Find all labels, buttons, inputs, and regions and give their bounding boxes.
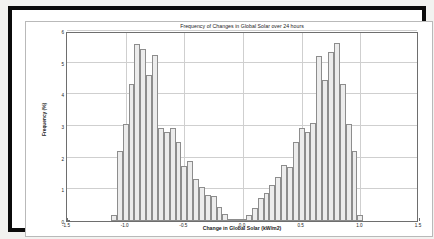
x-tick-label: -0.5 [179, 223, 187, 228]
screenshot-root: Frequency of Changes in Global Solar ove… [0, 0, 434, 239]
histogram-bars [67, 33, 417, 221]
y-axis-label: Frequency (%) [42, 72, 47, 168]
y-tick-label: 3 [56, 125, 64, 130]
gridline-horizontal [67, 30, 417, 31]
y-tick-label: 6 [56, 30, 64, 35]
x-tick-label: 0.0 [239, 223, 245, 228]
x-tick-mark [419, 218, 420, 221]
x-tick-label: 1.5 [415, 223, 421, 228]
x-tick-label: -1.0 [121, 223, 129, 228]
y-tick-label: 2 [56, 156, 64, 161]
x-tick-label: 0.5 [297, 223, 303, 228]
plot-area [66, 32, 418, 222]
y-tick-label: 4 [56, 93, 64, 98]
y-tick-label: 5 [56, 61, 64, 66]
chart-figure: Frequency of Changes in Global Solar ove… [26, 22, 432, 236]
y-tick-label: 0 [56, 220, 64, 225]
photo-frame-outer: Frequency of Changes in Global Solar ove… [8, 6, 426, 232]
x-tick-label: 1.0 [356, 223, 362, 228]
histogram-bar [357, 215, 363, 221]
y-tick-label: 1 [56, 188, 64, 193]
histogram-bar [352, 151, 358, 221]
